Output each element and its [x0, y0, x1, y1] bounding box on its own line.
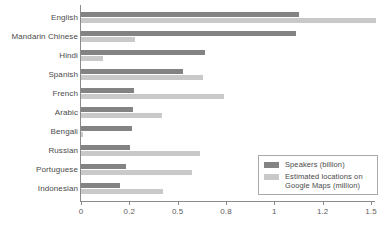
bar-speakers	[81, 50, 205, 55]
legend-swatch-speakers	[264, 162, 279, 168]
bar-locations	[81, 94, 224, 99]
bar-speakers	[81, 126, 132, 131]
bar-locations	[81, 170, 192, 175]
bar-chart: 00.20.50.811.21.5 EnglishMandarin Chines…	[0, 0, 384, 232]
x-tick	[81, 201, 82, 205]
bar-locations	[81, 56, 103, 61]
legend-label-speakers: Speakers (billion)	[285, 160, 345, 169]
x-tick-label: 1.5	[365, 207, 376, 216]
legend-label-locations: Estimated locations onGoogle Maps (milli…	[285, 172, 363, 190]
x-tick	[323, 201, 324, 205]
bar-locations	[81, 75, 203, 80]
bar-speakers	[81, 31, 296, 36]
x-tick	[226, 201, 227, 205]
x-tick	[178, 201, 179, 205]
x-tick	[274, 201, 275, 205]
legend-item: Estimated locations onGoogle Maps (milli…	[264, 172, 373, 190]
category-label: Russian	[48, 146, 78, 155]
legend-swatch-locations	[264, 174, 279, 180]
category-label: Hindi	[59, 51, 78, 60]
category-label: Arabic	[55, 108, 78, 117]
category-label: Indonesian	[38, 184, 78, 193]
x-tick	[371, 201, 372, 205]
bar-locations	[81, 113, 162, 118]
x-tick-label: 1.2	[317, 207, 328, 216]
legend-item: Speakers (billion)	[264, 160, 373, 169]
bar-speakers	[81, 107, 133, 112]
x-axis-line	[80, 201, 375, 202]
category-label: Bengali	[51, 127, 78, 136]
x-tick-label: 0.5	[172, 207, 183, 216]
bar-speakers	[81, 145, 130, 150]
bar-speakers	[81, 12, 299, 17]
bar-locations	[81, 151, 200, 156]
bar-locations	[81, 18, 376, 23]
category-label: Spanish	[48, 70, 78, 79]
chart-legend: Speakers (billion) Estimated locations o…	[258, 155, 378, 195]
bar-locations	[81, 37, 135, 42]
x-tick-label: 1	[272, 207, 277, 216]
x-tick-label: 0.8	[220, 207, 231, 216]
category-label: French	[53, 89, 79, 98]
x-tick	[129, 201, 130, 205]
bar-speakers	[81, 164, 126, 169]
x-tick-label: 0.2	[124, 207, 135, 216]
bar-speakers	[81, 69, 183, 74]
bar-locations	[81, 189, 163, 194]
bar-speakers	[81, 88, 134, 93]
category-label: Portuguese	[36, 165, 78, 174]
bar-speakers	[81, 183, 120, 188]
category-label: English	[51, 13, 78, 22]
bar-locations	[81, 132, 83, 137]
x-tick-label: 0	[79, 207, 84, 216]
category-label: Mandarin Chinese	[11, 32, 78, 41]
